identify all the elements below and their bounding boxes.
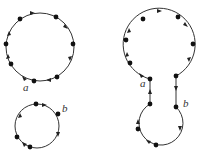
right-figure-dots [124, 15, 196, 148]
arrow-icon [183, 22, 188, 27]
point [34, 102, 39, 107]
point [124, 38, 129, 43]
arrow-icon [148, 89, 152, 94]
arrow-icon [125, 52, 129, 57]
label-b: b [183, 97, 189, 109]
point [4, 42, 9, 47]
label-b: b [62, 102, 68, 114]
large-circle [6, 13, 74, 81]
point [9, 62, 14, 67]
point [136, 127, 141, 132]
point [15, 135, 20, 140]
label-a: a [140, 77, 146, 89]
arrow-icon [174, 86, 178, 91]
arrow-icon [187, 57, 191, 62]
point [141, 17, 146, 22]
arrow-icon [127, 28, 131, 33]
arrow-icon [22, 142, 27, 147]
arrow-icon [46, 78, 51, 82]
upper-loop [123, 8, 195, 79]
label-a: a [23, 81, 29, 93]
point [174, 74, 179, 79]
point [18, 17, 23, 22]
arrow-icon [7, 31, 11, 36]
point [191, 42, 196, 47]
arrow-icon [30, 11, 35, 15]
right-figure-arrows [125, 9, 191, 144]
point [176, 15, 181, 20]
right-figure: a b [123, 8, 195, 147]
point [148, 102, 153, 107]
point [174, 105, 179, 110]
point [148, 77, 153, 82]
point [128, 61, 133, 66]
left-figure: a b [4, 11, 76, 149]
diagram: a b [0, 0, 201, 160]
small-circle [15, 104, 59, 148]
point [54, 15, 59, 20]
point [71, 42, 76, 47]
point [32, 79, 37, 84]
point [154, 143, 159, 148]
arrow-icon [146, 140, 151, 144]
arrow-icon [157, 9, 162, 13]
point [28, 145, 33, 150]
lower-loop [139, 104, 183, 145]
point [55, 75, 60, 80]
point [56, 112, 61, 117]
